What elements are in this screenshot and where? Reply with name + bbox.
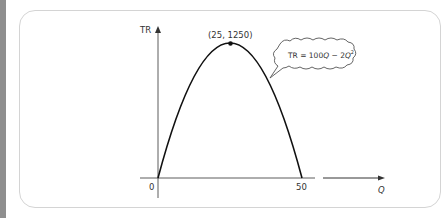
origin-label: 0 — [149, 182, 154, 192]
x-axis-arrow-icon — [378, 176, 385, 181]
y-axis-label: TR — [140, 25, 151, 35]
y-axis-arrow-icon — [155, 26, 161, 33]
equation-text: TR = 100Q − 2Q2 — [288, 49, 354, 60]
x-axis-label: Q — [378, 185, 385, 195]
peak-label: (25, 1250) — [208, 30, 252, 40]
x-intercept-label: 50 — [296, 182, 307, 192]
peak-point — [228, 41, 233, 46]
